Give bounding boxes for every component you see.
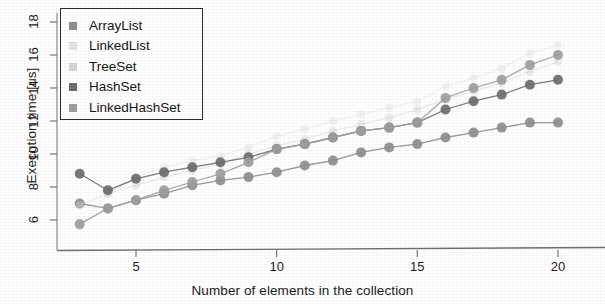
x-axis-title: Number of elements in the collection [0, 283, 605, 298]
legend-item-linkedlist: LinkedList [69, 36, 150, 57]
y-tick-label: 6 [26, 207, 41, 233]
y-tick-label: 16 [26, 42, 41, 68]
legend: ArrayListLinkedListTreeSetHashSetLinkedH… [60, 8, 203, 120]
legend-swatch-icon [69, 22, 77, 30]
legend-swatch-icon [69, 104, 77, 112]
legend-label: ArrayList [89, 19, 142, 33]
y-tick-label: 12 [26, 108, 41, 134]
legend-item-treeset: TreeSet [69, 56, 137, 77]
legend-item-arraylist: ArrayList [69, 15, 142, 36]
x-tick-label: 10 [262, 259, 292, 274]
x-tick-label: 15 [402, 259, 432, 274]
legend-swatch-icon [69, 63, 77, 71]
legend-label: TreeSet [89, 60, 137, 74]
legend-item-hashset: HashSet [69, 77, 141, 98]
legend-swatch-icon [69, 42, 77, 50]
legend-label: LinkedHashSet [89, 101, 181, 115]
y-tick-label: 14 [26, 75, 41, 101]
legend-swatch-icon [69, 83, 77, 91]
chart-container: Execution time [us] Number of elements i… [0, 0, 605, 304]
y-tick-label: 10 [26, 141, 41, 167]
y-tick-label: 18 [26, 9, 41, 35]
y-tick-label: 8 [26, 174, 41, 200]
x-tick-label: 20 [543, 259, 573, 274]
x-tick-label: 5 [121, 259, 151, 274]
legend-label: HashSet [89, 80, 141, 94]
legend-label: LinkedList [89, 39, 150, 53]
legend-item-linkedhashset: LinkedHashSet [69, 97, 181, 118]
